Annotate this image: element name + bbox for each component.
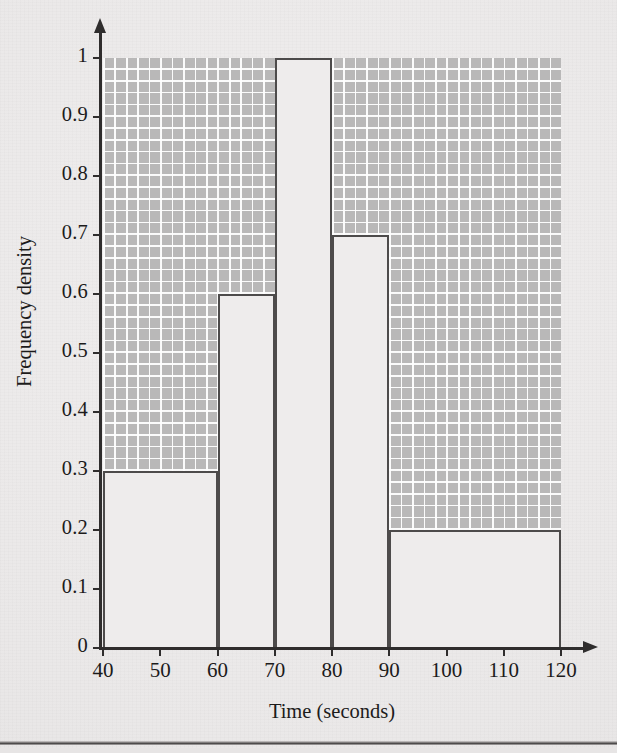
x-axis-tick bbox=[274, 648, 276, 656]
y-axis-tick-label: 0.3 bbox=[28, 457, 88, 480]
x-axis-tick bbox=[388, 648, 390, 656]
histogram-bar bbox=[218, 294, 275, 648]
y-axis-tick bbox=[93, 116, 102, 118]
y-axis-tick bbox=[93, 411, 102, 413]
page-bottom-rule bbox=[0, 741, 617, 745]
x-axis-arrow-icon bbox=[583, 641, 598, 653]
y-axis-tick-label: 0.6 bbox=[28, 280, 88, 303]
x-axis-tick bbox=[159, 648, 161, 656]
x-axis-title: Time (seconds) bbox=[103, 700, 561, 723]
histogram-bar bbox=[332, 235, 389, 648]
histogram-bar bbox=[103, 471, 218, 648]
y-axis-tick bbox=[93, 293, 102, 295]
x-axis-line bbox=[99, 647, 585, 650]
y-axis-tick-label: 0.7 bbox=[28, 221, 88, 244]
y-axis-tick bbox=[93, 647, 102, 649]
y-axis-line bbox=[99, 30, 102, 650]
histogram-bar bbox=[389, 530, 561, 648]
y-axis-tick bbox=[93, 529, 102, 531]
y-axis-tick bbox=[93, 470, 102, 472]
y-axis-tick bbox=[93, 352, 102, 354]
y-axis-tick-label: 0.5 bbox=[28, 339, 88, 362]
y-axis-tick-label: 0.9 bbox=[28, 103, 88, 126]
y-axis-tick bbox=[93, 175, 102, 177]
x-axis-tick bbox=[102, 648, 104, 656]
y-axis-tick-label: 0.4 bbox=[28, 398, 88, 421]
page-bottom-margin bbox=[0, 748, 617, 753]
y-axis-tick-label: 1 bbox=[28, 44, 88, 67]
x-axis-tick-label: 120 bbox=[526, 658, 596, 683]
y-axis-tick-label: 0.2 bbox=[28, 516, 88, 539]
x-axis-tick bbox=[217, 648, 219, 656]
x-axis-tick bbox=[560, 648, 562, 656]
y-axis-tick-label: 0.8 bbox=[28, 162, 88, 185]
y-axis-tick bbox=[93, 234, 102, 236]
y-axis-title: Frequency density bbox=[13, 192, 36, 432]
plot-area bbox=[103, 58, 561, 648]
y-axis-tick-label: 0 bbox=[28, 634, 88, 657]
y-axis-tick bbox=[93, 57, 102, 59]
histogram-bar bbox=[275, 58, 332, 648]
y-axis-arrow-icon bbox=[94, 18, 106, 33]
x-axis-tick bbox=[446, 648, 448, 656]
x-axis-tick bbox=[503, 648, 505, 656]
y-axis-tick-label: 0.1 bbox=[28, 575, 88, 598]
y-axis-tick bbox=[93, 588, 102, 590]
x-axis-tick bbox=[331, 648, 333, 656]
